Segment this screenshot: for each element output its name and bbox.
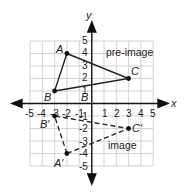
y-tick: -5 [79, 161, 88, 172]
y-tick: 5 [82, 35, 88, 46]
y-tick: -2 [79, 123, 88, 134]
x-tick: 3 [126, 108, 132, 119]
x-axis-label: x [170, 97, 177, 109]
x-axis-right-arrow-icon [158, 100, 168, 108]
point-b-prime [52, 114, 57, 119]
x-axis-left-arrow-icon [12, 100, 22, 108]
coordinate-plane: x y -5 -4 -3 -2 -1 1 2 3 4 5 5 4 3 2 1 -… [0, 0, 188, 194]
y-axis-label: y [85, 9, 93, 21]
x-tick: 5 [150, 108, 156, 119]
point-c-prime [126, 126, 131, 131]
x-tick: -5 [25, 108, 34, 119]
x-tick: 2 [114, 108, 120, 119]
x-tick: 4 [138, 108, 144, 119]
x-tick: 1 [102, 108, 108, 119]
label-b-prime: B′ [40, 118, 50, 130]
label-a: A [55, 43, 63, 55]
y-tick: -4 [79, 148, 88, 159]
y-tick: 4 [82, 47, 88, 58]
point-b [52, 89, 57, 94]
pre-image-label: pre-image [106, 46, 153, 58]
point-a [65, 51, 70, 56]
label-c-prime: C′ [132, 122, 143, 134]
label-a-prime: A′ [53, 157, 64, 169]
label-b: B [44, 91, 51, 103]
label-b-axis: B [81, 91, 88, 103]
label-c: C [131, 65, 139, 77]
image-label: image [108, 139, 137, 151]
y-axis-up-arrow-icon [88, 22, 96, 32]
y-tick: 2 [82, 72, 88, 83]
point-a-prime [65, 151, 70, 156]
y-tick: -3 [79, 136, 88, 147]
y-axis-down-arrow-icon [88, 174, 96, 184]
